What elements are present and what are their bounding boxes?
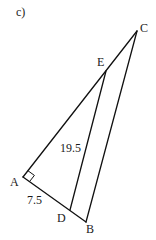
point-label-C: C [140, 21, 148, 35]
point-label-D: D [57, 211, 66, 225]
triangle-diagram: c) C E A D B 19.5 7.5 [0, 0, 156, 240]
point-label-A: A [10, 175, 19, 189]
right-angle-marker [28, 171, 35, 182]
measurement-AD: 7.5 [27, 193, 42, 207]
point-label-B: B [86, 222, 94, 236]
segment-BC [86, 31, 137, 222]
segment-AC [23, 31, 137, 177]
point-label-E: E [97, 55, 104, 69]
measurement-DE: 19.5 [60, 141, 81, 155]
figure-label: c) [16, 5, 25, 19]
